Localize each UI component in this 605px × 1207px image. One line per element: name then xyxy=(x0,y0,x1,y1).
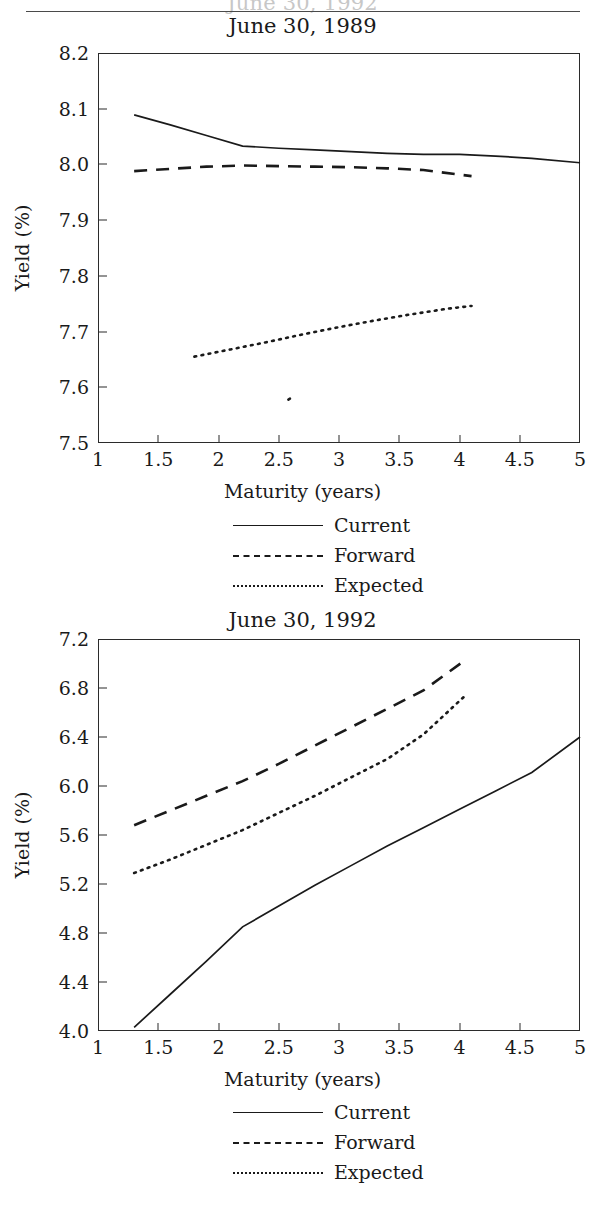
y-axis-tick xyxy=(98,220,107,221)
y-axis-tick-label: 6.4 xyxy=(59,728,89,747)
x-axis-tick-label: 1 xyxy=(92,1038,104,1057)
y-axis-tick-label: 7.9 xyxy=(59,211,89,230)
y-axis-tick-label: 6.8 xyxy=(59,679,89,698)
series-stray-mark xyxy=(288,397,293,400)
x-axis-tick-label: 2.5 xyxy=(264,450,294,469)
x-axis-tick xyxy=(339,435,340,443)
x-axis-tick xyxy=(158,435,159,443)
chart-title: June 30, 1992 xyxy=(0,608,605,633)
y-axis-tick-label: 8.2 xyxy=(59,44,89,63)
y-axis-tick-label: 5.2 xyxy=(59,875,89,894)
series-forward xyxy=(134,660,465,825)
x-axis-tick xyxy=(459,435,460,443)
legend-label: Expected xyxy=(334,576,424,595)
x-axis-tick xyxy=(399,435,400,443)
x-axis-tick-label: 1 xyxy=(92,450,104,469)
x-axis-title: Maturity (years) xyxy=(0,480,605,502)
x-axis-tick xyxy=(519,435,520,443)
y-axis-tick-label: 5.6 xyxy=(59,826,89,845)
legend-item-current: Current xyxy=(0,1097,605,1127)
x-axis-tick-label: 4 xyxy=(453,1038,465,1057)
x-axis-tick-label: 3 xyxy=(333,450,345,469)
x-axis-tick xyxy=(218,1023,219,1031)
y-axis-tick xyxy=(98,835,107,836)
line-solid-icon xyxy=(228,1105,328,1119)
line-solid-icon xyxy=(228,518,328,532)
x-axis-tick-label: 3 xyxy=(333,1038,345,1057)
x-axis-tick-label: 2.5 xyxy=(264,1038,294,1057)
legend-item-forward: Forward xyxy=(0,540,605,570)
legend: Current Forward Expected xyxy=(0,510,605,600)
series-current xyxy=(134,737,580,1027)
x-axis-tick xyxy=(278,435,279,443)
y-axis-tick-label: 8.0 xyxy=(59,155,89,174)
legend-item-current: Current xyxy=(0,510,605,540)
y-axis-tick xyxy=(98,884,107,885)
legend-label: Current xyxy=(334,1103,410,1122)
x-axis-tick xyxy=(399,1023,400,1031)
legend-label: Forward xyxy=(334,1133,416,1152)
x-axis-tick-label: 2 xyxy=(212,450,224,469)
y-axis-tick-label: 7.7 xyxy=(59,322,89,341)
x-axis-tick xyxy=(459,1023,460,1031)
plot-area: 4.04.44.85.25.66.06.46.87.2Yield (%)11.5… xyxy=(98,639,580,1031)
x-axis-tick-label: 2 xyxy=(212,1038,224,1057)
series-lines xyxy=(98,639,580,1031)
y-axis-tick xyxy=(98,275,107,276)
y-axis-tick xyxy=(98,786,107,787)
legend-item-forward: Forward xyxy=(0,1127,605,1157)
x-axis-title: Maturity (years) xyxy=(0,1068,605,1090)
legend-item-expected: Expected xyxy=(0,1157,605,1187)
line-dashed-icon xyxy=(228,1135,328,1149)
chart-title: June 30, 1989 xyxy=(0,14,605,39)
figure-page: June 30, 1992 June 30, 1989 7.57.67.77.8… xyxy=(0,0,605,1207)
y-axis-tick xyxy=(98,108,107,109)
series-lines xyxy=(98,53,580,443)
y-axis-tick-label: 7.2 xyxy=(59,630,89,649)
series-expected xyxy=(194,306,471,357)
y-axis-tick xyxy=(98,331,107,332)
x-axis-tick-label: 3.5 xyxy=(384,1038,414,1057)
x-axis-tick-label: 4.5 xyxy=(505,1038,535,1057)
y-axis-tick-label: 4.0 xyxy=(59,1022,89,1041)
line-dashed-icon xyxy=(228,548,328,562)
legend: Current Forward Expected xyxy=(0,1097,605,1187)
y-axis-tick-label: 6.0 xyxy=(59,777,89,796)
y-axis-tick xyxy=(98,737,107,738)
y-axis-tick-label: 4.4 xyxy=(59,973,89,992)
legend-label: Current xyxy=(334,516,410,535)
y-axis-tick xyxy=(98,933,107,934)
y-axis-tick-label: 4.8 xyxy=(59,924,89,943)
y-axis-tick xyxy=(98,982,107,983)
x-axis-tick-label: 1.5 xyxy=(143,450,173,469)
y-axis-tick xyxy=(98,164,107,165)
chart-june-30-1992: June 30, 1992 4.04.44.85.25.66.06.46.87.… xyxy=(0,600,605,1207)
chart-june-30-1989: June 30, 1989 7.57.67.77.87.98.08.18.2Yi… xyxy=(0,0,605,600)
legend-item-expected: Expected xyxy=(0,570,605,600)
x-axis-tick-label: 5 xyxy=(574,450,586,469)
x-axis-tick xyxy=(519,1023,520,1031)
x-axis-tick-label: 3.5 xyxy=(384,450,414,469)
x-axis-tick xyxy=(158,1023,159,1031)
y-axis-title: Yield (%) xyxy=(11,205,33,292)
x-axis-tick-label: 1.5 xyxy=(143,1038,173,1057)
plot-area: 7.57.67.77.87.98.08.18.2Yield (%)11.522.… xyxy=(98,53,580,443)
series-expected xyxy=(134,695,465,873)
y-axis-tick-label: 7.8 xyxy=(59,266,89,285)
x-axis-tick-label: 5 xyxy=(574,1038,586,1057)
series-forward xyxy=(134,166,471,177)
y-axis-tick-label: 8.1 xyxy=(59,99,89,118)
series-current xyxy=(134,115,580,163)
x-axis-tick xyxy=(278,1023,279,1031)
y-axis-tick-label: 7.5 xyxy=(59,434,89,453)
x-axis-tick-label: 4 xyxy=(453,450,465,469)
x-axis-tick xyxy=(339,1023,340,1031)
x-axis-tick xyxy=(218,435,219,443)
line-dotted-icon xyxy=(228,578,328,592)
x-axis-tick-label: 4.5 xyxy=(505,450,535,469)
y-axis-tick xyxy=(98,387,107,388)
line-dotted-icon xyxy=(228,1165,328,1179)
y-axis-tick xyxy=(98,688,107,689)
legend-label: Expected xyxy=(334,1163,424,1182)
y-axis-title: Yield (%) xyxy=(11,792,33,879)
